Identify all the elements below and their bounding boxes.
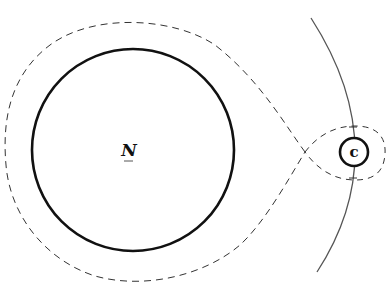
small-body-label: c [349, 143, 358, 161]
roche-lobe-large [5, 22, 305, 281]
large-body-label: N [120, 140, 138, 160]
roche-lobe-diagram: N c [0, 0, 390, 295]
